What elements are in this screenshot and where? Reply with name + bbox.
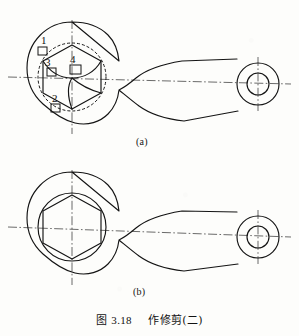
caption-title: 作修剪(二) [148,314,202,327]
figure-stage: 1 3 4 2 (a) (b) 图 3.18 作修剪(二) [0,0,299,336]
caption-prefix: 图 [96,314,107,327]
caption-number: 3.18 [111,314,131,326]
subfigure-b-drawing [0,0,299,336]
subfigure-label-b: (b) [133,286,145,297]
figure-caption: 图 3.18 作修剪(二) [0,311,299,327]
